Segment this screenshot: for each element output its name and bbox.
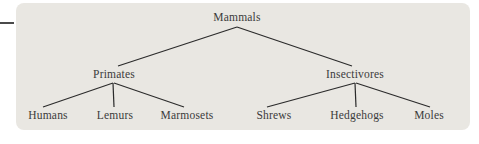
node-label-lemurs: Lemurs bbox=[97, 109, 133, 122]
node-label-hedgehogs: Hedgehogs bbox=[330, 109, 384, 122]
node-label-shrews: Shrews bbox=[256, 109, 291, 122]
node-label-insectivores: Insectivores bbox=[326, 68, 384, 81]
node-label-humans: Humans bbox=[28, 109, 68, 122]
node-label-marmosets: Marmosets bbox=[161, 109, 214, 122]
node-label-primates: Primates bbox=[93, 68, 135, 81]
node-label-mammals: Mammals bbox=[213, 11, 260, 24]
clipped-left-edge-line bbox=[0, 22, 14, 24]
diagram-stage: Mammals Primates Insectivores Humans Lem… bbox=[0, 0, 479, 144]
node-label-moles: Moles bbox=[414, 109, 444, 122]
